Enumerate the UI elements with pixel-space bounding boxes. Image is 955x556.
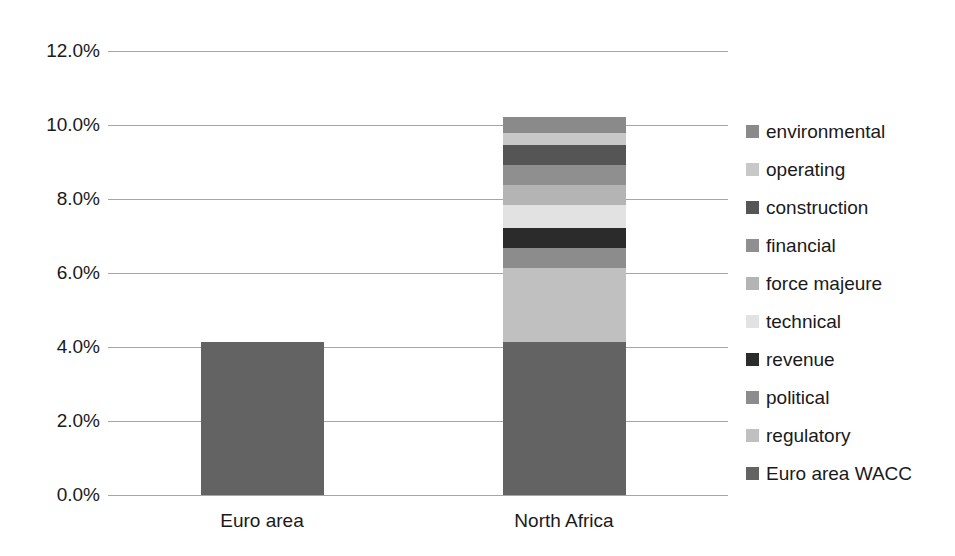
x-axis-tick-label: North Africa [464, 510, 664, 532]
legend-swatch-icon [746, 429, 759, 442]
y-axis-tick-label: 0.0% [8, 485, 100, 504]
y-axis: 12.0%10.0%8.0%6.0%4.0%2.0%0.0% [0, 0, 100, 556]
bar-group[interactable] [503, 51, 626, 495]
legend-item-political[interactable]: political [746, 378, 951, 416]
legend-item-label: force majeure [766, 273, 882, 294]
bar-segment-political[interactable] [503, 248, 626, 268]
legend-swatch-icon [746, 201, 759, 214]
legend-item-label: Euro area WACC [766, 463, 912, 484]
y-axis-tick-label: 10.0% [8, 115, 100, 134]
legend-item-environmental[interactable]: environmental [746, 112, 951, 150]
legend-swatch-icon [746, 163, 759, 176]
legend-item-label: technical [766, 311, 841, 332]
bar-segment-regulatory[interactable] [503, 268, 626, 342]
bar-segment-technical[interactable] [503, 205, 626, 228]
legend-swatch-icon [746, 353, 759, 366]
plot-area [108, 51, 728, 495]
legend-item-revenue[interactable]: revenue [746, 340, 951, 378]
bar-segment-euro-area-wacc[interactable] [201, 342, 324, 495]
y-axis-tick-label: 12.0% [8, 41, 100, 60]
y-axis-tick-label: 6.0% [8, 263, 100, 282]
bar-segment-construction[interactable] [503, 145, 626, 165]
bar-segment-environmental[interactable] [503, 117, 626, 133]
x-axis-tick-label: Euro area [162, 510, 362, 532]
legend-item-euro-area-wacc[interactable]: Euro area WACC [746, 454, 951, 492]
legend-item-operating[interactable]: operating [746, 150, 951, 188]
legend-swatch-icon [746, 277, 759, 290]
legend-swatch-icon [746, 239, 759, 252]
chart-container: 12.0%10.0%8.0%6.0%4.0%2.0%0.0% environme… [0, 0, 955, 556]
bar-segment-revenue[interactable] [503, 228, 626, 248]
legend-item-force-majeure[interactable]: force majeure [746, 264, 951, 302]
gridline [108, 495, 728, 496]
bar-segment-operating[interactable] [503, 133, 626, 145]
bar-segment-financial[interactable] [503, 165, 626, 185]
bar-segment-force-majeure[interactable] [503, 185, 626, 205]
legend-item-construction[interactable]: construction [746, 188, 951, 226]
y-axis-tick-label: 2.0% [8, 411, 100, 430]
legend-swatch-icon [746, 315, 759, 328]
legend-item-regulatory[interactable]: regulatory [746, 416, 951, 454]
bar-group[interactable] [201, 51, 324, 495]
legend-item-financial[interactable]: financial [746, 226, 951, 264]
y-axis-tick-label: 8.0% [8, 189, 100, 208]
legend-item-label: construction [766, 197, 868, 218]
legend-item-label: revenue [766, 349, 835, 370]
y-axis-tick-label: 4.0% [8, 337, 100, 356]
legend-item-technical[interactable]: technical [746, 302, 951, 340]
legend-item-label: operating [766, 159, 845, 180]
stacked-bar[interactable] [503, 117, 626, 495]
chart-legend: environmentaloperatingconstructionfinanc… [746, 112, 951, 492]
legend-swatch-icon [746, 391, 759, 404]
bar-segment-euro-area-wacc[interactable] [503, 342, 626, 495]
legend-item-label: political [766, 387, 829, 408]
legend-swatch-icon [746, 467, 759, 480]
legend-item-label: regulatory [766, 425, 851, 446]
stacked-bar[interactable] [201, 342, 324, 495]
legend-swatch-icon [746, 125, 759, 138]
legend-item-label: financial [766, 235, 836, 256]
legend-item-label: environmental [766, 121, 885, 142]
